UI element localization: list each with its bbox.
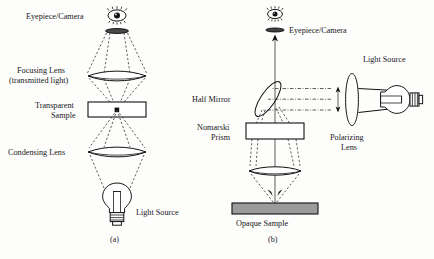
nomarski-prism-icon — [246, 123, 304, 139]
condensing-lens-a — [88, 147, 146, 157]
optical-axis-b — [272, 35, 278, 206]
half-mirror-label: Half Mirror — [192, 95, 231, 104]
polarizing-lens-label-line1: Polarizing — [330, 133, 364, 142]
panel-a-caption: (a) — [110, 235, 119, 244]
light-bulb-icon-a — [103, 183, 132, 225]
transparent-sample-label-line1: Transparent — [35, 101, 75, 110]
panel-a-transmitted-light: Eyepiece/Camera Focusing Lens (transmitt… — [8, 6, 179, 244]
polarizing-lens-label-line2: Lens — [341, 143, 357, 152]
light-source-label-a: Light Source — [136, 208, 179, 217]
nomarski-prism-label-line2: Prism — [211, 133, 231, 142]
transparent-sample-a — [88, 102, 146, 117]
ray-bundle-upper-a — [87, 33, 147, 74]
panel-b-reflected-light: Eyepiece/Camera Half Mirror — [192, 6, 423, 244]
objective-lens-b — [249, 167, 301, 175]
focusing-lens-label-line2: (transmitted light) — [9, 76, 69, 85]
panel-b-caption: (b) — [268, 235, 278, 244]
opaque-sample-label: Opaque Sample — [236, 219, 288, 228]
opaque-sample-slab — [232, 203, 318, 214]
double-arrow-icon — [336, 87, 341, 113]
transparent-sample-label-line2: Sample — [51, 111, 76, 120]
eyepiece-label-a: Eyepiece/Camera — [26, 12, 84, 21]
nomarski-prism-label-line1: Nomarski — [197, 123, 230, 132]
light-bulb-icon-b — [381, 86, 423, 114]
focusing-lens-label-line1: Focusing Lens — [17, 66, 65, 75]
eye-icon-b — [267, 6, 283, 22]
eyepiece-aperture-b — [266, 28, 284, 32]
eyepiece-aperture-a — [106, 29, 129, 34]
focusing-lens-a — [88, 71, 146, 81]
eyepiece-label-b: Eyepiece/Camera — [289, 26, 347, 35]
illumination-beam-b — [263, 89, 331, 111]
condensing-lens-label: Condensing Lens — [8, 148, 65, 157]
optical-microscope-figure: Eyepiece/Camera Focusing Lens (transmitt… — [0, 0, 434, 259]
light-source-label-b: Light Source — [363, 55, 406, 64]
eye-icon — [107, 6, 127, 24]
